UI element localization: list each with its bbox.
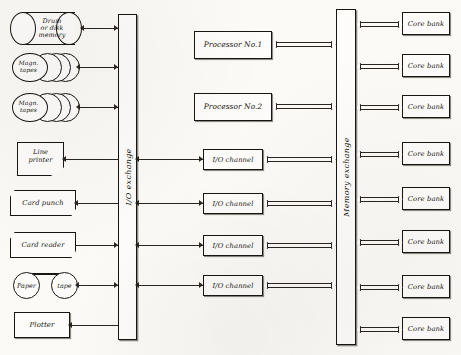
bus-tip-left: [263, 282, 268, 289]
arrowhead-left: [80, 25, 84, 31]
line-printer: Line printer: [17, 142, 64, 176]
bus-tip-left: [272, 103, 277, 110]
arrowhead-left: [62, 156, 66, 162]
bus-tip-left: [263, 156, 268, 163]
bus-channel-3-to-memory-exchange: [268, 243, 331, 248]
magnetic-tapes-1-label: Magn. tapes: [13, 60, 44, 74]
core-bank-8: Core bank: [402, 317, 450, 340]
core-bank-3: Core bank: [402, 95, 450, 118]
core-bank-6-label: Core bank: [403, 237, 449, 245]
wire-io-exchange-to-channel-4: [137, 285, 203, 286]
processor-2: Processor No.2: [194, 93, 272, 121]
wire-line-printer-to-io-exchange: [64, 159, 118, 160]
io-channel-3: I/O channel: [203, 235, 263, 256]
bus-tip-right: [331, 200, 336, 207]
io-channel-4-label: I/O channel: [204, 281, 262, 289]
wire-io-exchange-to-channel-3: [137, 245, 203, 246]
processor-2-label: Processor No.2: [195, 103, 271, 111]
io-channel-2-label: I/O channel: [204, 199, 262, 207]
io-channel-2: I/O channel: [203, 193, 263, 214]
wire-tapes1-to-io-exchange: [78, 67, 118, 68]
processor-1: Processor No.1: [194, 31, 272, 59]
core-bank-8-label: Core bank: [403, 324, 449, 332]
bus-memory-exchange-to-core-bank-2: [361, 64, 398, 69]
paper-tape-reel-right: tape: [51, 272, 78, 299]
memory-exchange: Memory exchange: [336, 9, 356, 345]
bus-tip-left: [272, 41, 277, 48]
card-punch: Card punch: [10, 190, 76, 216]
bus-tip-left: [356, 326, 361, 333]
bus-tip-left: [263, 200, 268, 207]
wire-io-exchange-to-channel-1: [137, 159, 203, 160]
arrowhead-right: [199, 156, 203, 162]
core-bank-1: Core bank: [402, 12, 450, 35]
bus-tip-left: [356, 196, 361, 203]
io-exchange: I/O exchange: [118, 14, 137, 340]
core-bank-4: Core bank: [402, 142, 450, 165]
bus-tip-left: [356, 63, 361, 70]
arrowhead-right: [199, 200, 203, 206]
paper-tape-left-label: Paper: [14, 282, 39, 290]
io-channel-1-label: I/O channel: [204, 155, 262, 163]
arrowhead-right: [114, 64, 118, 70]
bus-memory-exchange-to-core-bank-7: [361, 285, 398, 290]
bus-channel-4-to-memory-exchange: [268, 283, 331, 288]
block-diagram-canvas: Drum or disk memory Magn. tapes Magn. ta…: [0, 0, 461, 355]
drum-or-disk-memory: Drum or disk memory: [10, 12, 82, 45]
io-channel-4: I/O channel: [203, 275, 263, 296]
bus-channel-1-to-memory-exchange: [268, 157, 331, 162]
bus-tip-left: [356, 239, 361, 246]
wire-card-punch-to-io-exchange: [76, 203, 118, 204]
io-channel-3-label: I/O channel: [204, 241, 262, 249]
card-reader-label: Card reader: [11, 241, 75, 249]
bus-processor-2-to-memory-exchange: [277, 104, 331, 109]
arrowhead-left: [135, 282, 139, 288]
processor-1-label: Processor No.1: [195, 41, 271, 49]
core-bank-2: Core bank: [402, 54, 450, 77]
bus-tip-left: [356, 21, 361, 28]
bus-tip-right: [331, 156, 336, 163]
arrowhead-right: [114, 242, 118, 248]
bus-channel-2-to-memory-exchange: [268, 201, 331, 206]
core-bank-5-label: Core bank: [403, 194, 449, 202]
bus-tip-left: [356, 104, 361, 111]
wire-tapes2-to-io-exchange: [78, 107, 118, 108]
bus-tip-right: [331, 41, 336, 48]
paper-tape-reel-left: Paper: [13, 272, 40, 299]
bus-tip-left: [356, 151, 361, 158]
bus-memory-exchange-to-core-bank-3: [361, 105, 398, 110]
wire-card-reader-to-io-exchange: [76, 245, 118, 246]
bus-memory-exchange-to-core-bank-1: [361, 22, 398, 27]
line-printer-label: Line printer: [18, 149, 63, 164]
core-bank-7-label: Core bank: [403, 282, 449, 290]
core-bank-2-label: Core bank: [403, 61, 449, 69]
arrowhead-right: [199, 242, 203, 248]
core-bank-3-label: Core bank: [403, 102, 449, 110]
arrowhead-left: [76, 64, 80, 70]
bus-processor-1-to-memory-exchange: [277, 42, 331, 47]
arrowhead-left: [135, 156, 139, 162]
magnetic-tapes-2-label: Magn. tapes: [13, 100, 44, 114]
wire-paper-tape-to-io-exchange: [77, 285, 118, 286]
core-bank-5: Core bank: [402, 187, 450, 210]
bus-tip-right: [331, 282, 336, 289]
bus-memory-exchange-to-core-bank-8: [361, 327, 398, 332]
arrowhead-left: [135, 200, 139, 206]
arrowhead-left: [76, 104, 80, 110]
arrowhead-right: [114, 25, 118, 31]
wire-io-exchange-to-channel-2: [137, 203, 203, 204]
bus-tip-left: [356, 284, 361, 291]
bus-tip-right: [331, 242, 336, 249]
paper-tape-right-label: tape: [52, 282, 77, 290]
core-bank-6: Core bank: [402, 230, 450, 253]
bus-tip-right: [331, 103, 336, 110]
wire-plotter-to-io-exchange: [70, 325, 118, 326]
magnetic-tapes-2: Magn. tapes: [12, 93, 78, 121]
io-channel-1: I/O channel: [203, 149, 263, 170]
plotter: Plotter: [14, 312, 70, 338]
memory-exchange-label: Memory exchange: [342, 137, 351, 216]
bus-memory-exchange-to-core-bank-6: [361, 240, 398, 245]
arrowhead-left: [135, 242, 139, 248]
core-bank-1-label: Core bank: [403, 19, 449, 27]
io-exchange-label: I/O exchange: [123, 148, 132, 205]
